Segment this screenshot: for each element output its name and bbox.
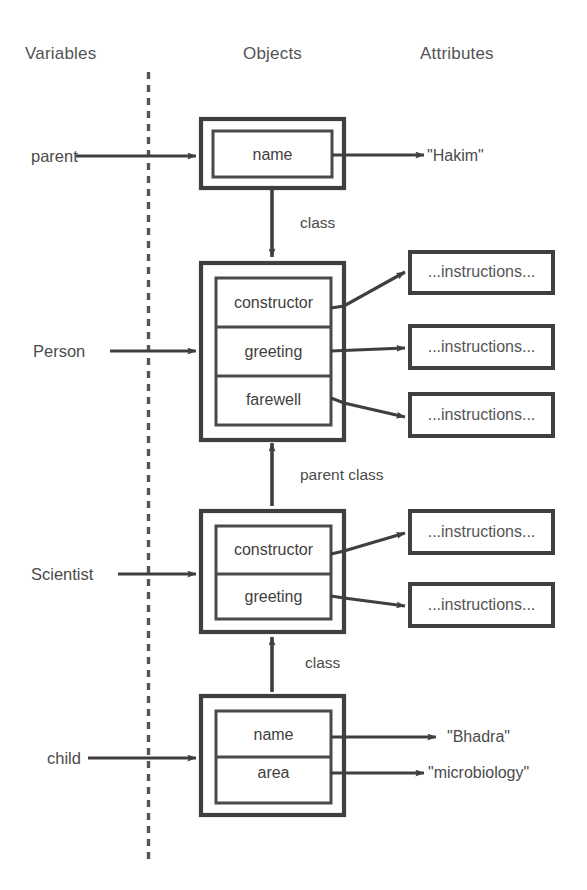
slot-scientist-greeting: greeting — [216, 589, 331, 605]
edge-label-parent-to-person: class — [300, 215, 335, 231]
slot-child-area: area — [216, 765, 331, 781]
attribute-parent-name-value: "Hakim" — [427, 148, 484, 164]
variable-parent: parent — [31, 148, 78, 165]
edge-label-scientist-to-person: parent class — [300, 467, 384, 483]
column-header-variables: Variables — [25, 45, 96, 62]
column-header-objects: Objects — [243, 45, 302, 62]
slot-child-name: name — [216, 727, 331, 743]
instruction-label-person-greeting: ...instructions... — [410, 339, 553, 355]
diagram-canvas — [0, 0, 587, 890]
slot-person-constructor: constructor — [216, 295, 331, 311]
slot-person-greeting: greeting — [216, 344, 331, 360]
attribute-child-area-value: "microbiology" — [428, 765, 529, 781]
scientist-class-box — [201, 511, 344, 632]
edge-label-child-to-scientist: class — [305, 655, 340, 671]
variable-child: child — [47, 750, 81, 767]
instruction-label-person-farewell: ...instructions... — [410, 407, 553, 423]
column-header-attributes: Attributes — [420, 45, 494, 62]
instruction-label-scientist-greeting: ...instructions... — [410, 597, 553, 613]
slot-person-farewell: farewell — [216, 392, 331, 408]
variable-person: Person — [33, 343, 85, 360]
instruction-label-person-constructor: ...instructions... — [410, 264, 553, 280]
attribute-child-name-value: "Bhadra" — [447, 729, 510, 745]
slot-scientist-constructor: constructor — [216, 542, 331, 558]
instruction-label-scientist-constructor: ...instructions... — [410, 524, 553, 540]
variable-scientist: Scientist — [31, 566, 93, 583]
object-model-diagram: Variables Objects Attributes parent Pers… — [0, 0, 587, 890]
child-object-box — [201, 696, 344, 815]
slot-parent-name: name — [213, 147, 332, 163]
